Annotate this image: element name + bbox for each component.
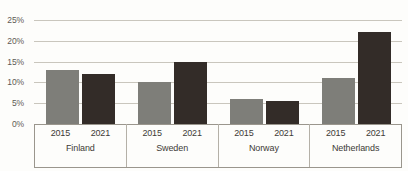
year-labels: 20152021 bbox=[127, 128, 218, 138]
country-label: Finland bbox=[66, 143, 95, 153]
axis-group-netherlands: 20152021Netherlands bbox=[310, 124, 401, 167]
bar-finland-2015 bbox=[46, 70, 79, 124]
bar-norway-2015 bbox=[230, 99, 263, 124]
y-tick-label: 15% bbox=[0, 57, 24, 67]
year-label: 2021 bbox=[85, 128, 115, 138]
bar-group-norway bbox=[218, 14, 310, 124]
year-labels: 20152021 bbox=[35, 128, 126, 138]
year-label: 2015 bbox=[321, 128, 351, 138]
y-tick-label: 5% bbox=[0, 98, 24, 108]
year-label: 2015 bbox=[137, 128, 167, 138]
bars bbox=[34, 14, 126, 124]
bar-netherlands-2015 bbox=[322, 78, 355, 124]
axis-group-finland: 20152021Finland bbox=[35, 124, 127, 167]
bar-netherlands-2021 bbox=[358, 32, 391, 124]
bar-finland-2021 bbox=[82, 74, 115, 124]
bar-group-netherlands bbox=[310, 14, 402, 124]
country-label: Netherlands bbox=[332, 143, 379, 153]
year-labels: 20152021 bbox=[310, 128, 401, 138]
axis-group-sweden: 20152021Sweden bbox=[127, 124, 219, 167]
year-label: 2021 bbox=[177, 128, 207, 138]
country-label: Sweden bbox=[156, 143, 188, 153]
year-label: 2015 bbox=[45, 128, 75, 138]
plot-area: 25%20%15%10%5%0% bbox=[34, 14, 402, 124]
country-label: Norway bbox=[249, 143, 279, 153]
bars bbox=[126, 14, 218, 124]
bar-group-finland bbox=[34, 14, 126, 124]
year-label: 2021 bbox=[269, 128, 299, 138]
bars bbox=[218, 14, 310, 124]
year-label: 2021 bbox=[361, 128, 391, 138]
y-tick-label: 25% bbox=[0, 15, 24, 25]
y-tick-label: 0% bbox=[0, 119, 24, 129]
bar-group-sweden bbox=[126, 14, 218, 124]
y-tick-label: 20% bbox=[0, 36, 24, 46]
bar-groups bbox=[34, 14, 402, 124]
bars bbox=[310, 14, 402, 124]
year-labels: 20152021 bbox=[219, 128, 310, 138]
bar-sweden-2021 bbox=[174, 62, 207, 124]
axis-group-norway: 20152021Norway bbox=[219, 124, 311, 167]
x-axis-labels: 20152021Finland20152021Sweden20152021Nor… bbox=[34, 124, 402, 168]
bar-chart: 25%20%15%10%5%0% 20152021Finland20152021… bbox=[0, 0, 408, 171]
bar-norway-2021 bbox=[266, 101, 299, 124]
year-label: 2015 bbox=[229, 128, 259, 138]
y-tick-label: 10% bbox=[0, 77, 24, 87]
bar-sweden-2015 bbox=[138, 82, 171, 124]
